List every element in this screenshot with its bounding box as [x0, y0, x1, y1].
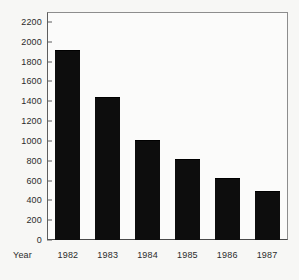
y-axis-tick-label: 1800: [21, 57, 42, 67]
y-axis-tick-label: 2000: [21, 37, 42, 47]
x-axis-tick-label: 1986: [217, 250, 238, 260]
bar: [95, 97, 120, 240]
bar: [215, 178, 240, 240]
bar: [55, 50, 80, 240]
y-axis-tick-label: 1000: [21, 136, 42, 146]
x-axis-tick-label: 1984: [137, 250, 158, 260]
y-axis-tick-labels: 0200400600800100012001400160018002000220…: [0, 12, 42, 240]
bars-container: [48, 12, 287, 240]
y-axis-tick-label: 1600: [21, 76, 42, 86]
bar: [175, 159, 200, 240]
y-axis-tick-label: 400: [26, 195, 42, 205]
x-axis-tick-labels: 198219831984198519861987: [0, 250, 299, 266]
y-axis-tick-label: 1200: [21, 116, 42, 126]
bar: [255, 191, 280, 240]
y-axis-tick-label: 200: [26, 215, 42, 225]
y-axis-tick-label: 2200: [21, 17, 42, 27]
x-axis-tick-label: 1982: [57, 250, 78, 260]
y-axis-tick-label: 600: [26, 176, 42, 186]
x-axis-tick-label: 1987: [257, 250, 278, 260]
y-axis-tick-label: 1400: [21, 96, 42, 106]
bar-chart: 0200400600800100012001400160018002000220…: [0, 0, 299, 280]
y-axis-tick-label: 800: [26, 156, 42, 166]
y-axis-tick-label: 0: [37, 235, 42, 245]
bar: [135, 140, 160, 240]
x-axis-tick-label: 1985: [177, 250, 198, 260]
x-axis-tick-label: 1983: [97, 250, 118, 260]
